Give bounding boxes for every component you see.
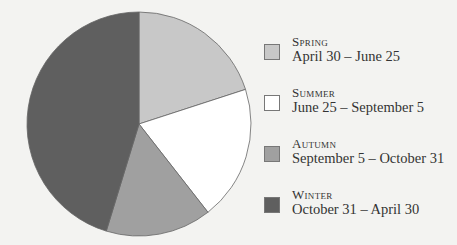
legend-range: October 31 – April 30 <box>292 201 419 218</box>
autumn-swatch <box>264 146 280 162</box>
legend-range: April 30 – June 25 <box>292 48 400 65</box>
spring-swatch <box>264 44 280 60</box>
legend-range: September 5 – October 31 <box>292 150 444 167</box>
winter-swatch <box>264 197 280 213</box>
pie-chart <box>0 0 260 245</box>
summer-swatch <box>264 95 280 111</box>
legend-range: June 25 – September 5 <box>292 99 424 116</box>
